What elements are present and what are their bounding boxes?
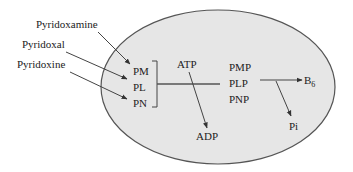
label-plp: PLP bbox=[229, 77, 248, 89]
label-pyridoxine: Pyridoxine bbox=[17, 58, 65, 70]
label-pn: PN bbox=[133, 97, 147, 109]
label-atp: ATP bbox=[177, 58, 197, 70]
label-pm: PM bbox=[133, 65, 149, 77]
vitamin-b6-pathway-diagram: Pyridoxamine Pyridoxal Pyridoxine PM PL … bbox=[0, 0, 353, 172]
label-adp: ADP bbox=[196, 130, 218, 142]
label-pi: Pi bbox=[289, 120, 298, 132]
label-pyridoxal: Pyridoxal bbox=[22, 38, 65, 50]
label-pyridoxamine: Pyridoxamine bbox=[36, 18, 98, 30]
label-pl: PL bbox=[133, 81, 146, 93]
label-pmp: PMP bbox=[229, 61, 251, 73]
label-pnp: PNP bbox=[229, 93, 249, 105]
